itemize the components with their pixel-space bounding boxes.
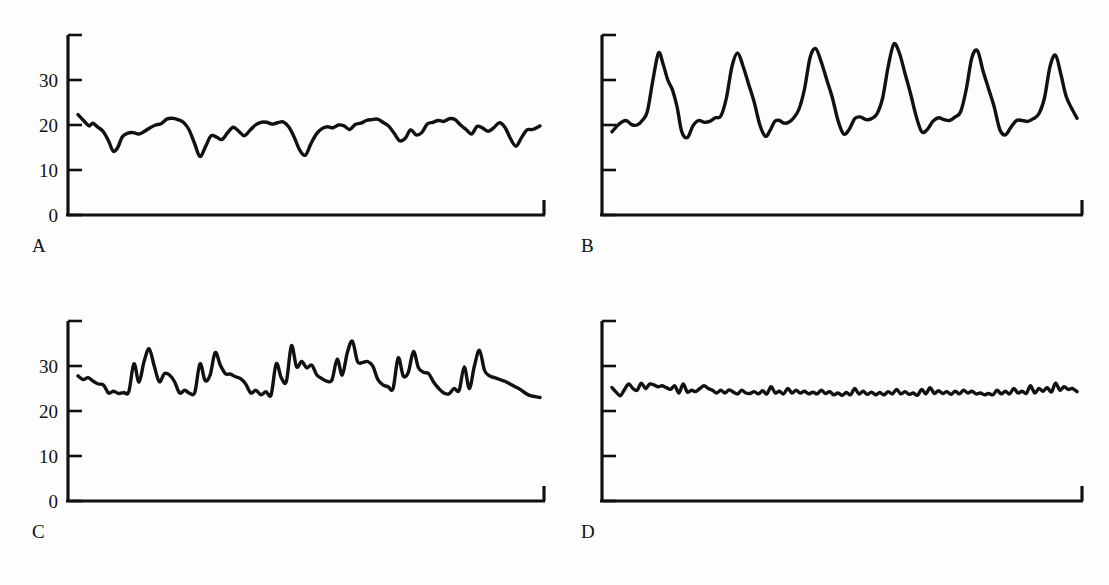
panel-c-ytick-30: 30: [39, 356, 58, 377]
panel-b-letter: B: [581, 236, 594, 255]
panel-b-plot: [549, 14, 1109, 229]
panel-a-ytick-30: 30: [39, 70, 58, 91]
panel-c-y-ticks: [68, 321, 82, 501]
panel-a-ytick-20: 20: [39, 115, 58, 136]
panel-b-data-line: [612, 44, 1077, 138]
panel-c-ytick-10: 10: [39, 446, 58, 467]
panel-a-letter: A: [32, 236, 46, 255]
panel-a-ytick-10: 10: [39, 160, 58, 181]
panel-d-y-ticks: [602, 321, 616, 501]
panel-b: B: [549, 14, 1109, 229]
figure-container: 30 20 10 0 A: [0, 0, 1109, 585]
panel-c-letter: C: [32, 522, 45, 541]
panel-d-letter: D: [581, 522, 595, 541]
panel-d-plot: [549, 300, 1109, 515]
panel-b-y-ticks: [602, 35, 616, 215]
panel-a-plot: 30 20 10 0: [0, 14, 560, 229]
panel-c-plot: 30 20 10 0: [0, 300, 560, 515]
panel-a-y-ticks: [68, 35, 82, 215]
panel-a: 30 20 10 0 A: [0, 14, 560, 229]
panel-c-ytick-20: 20: [39, 401, 58, 422]
panel-d: D: [549, 300, 1109, 515]
panel-c-data-line: [78, 341, 540, 397]
panel-c: 30 20 10 0 C: [0, 300, 560, 515]
panel-a-data-line: [78, 115, 540, 157]
panel-d-axes: [600, 321, 1083, 501]
panel-c-ytick-0: 0: [49, 491, 59, 512]
panel-c-y-tick-labels: 30 20 10 0: [39, 356, 58, 512]
panel-d-data-line: [612, 383, 1077, 396]
panel-a-ytick-0: 0: [49, 205, 59, 226]
panel-a-y-tick-labels: 30 20 10 0: [39, 70, 58, 226]
